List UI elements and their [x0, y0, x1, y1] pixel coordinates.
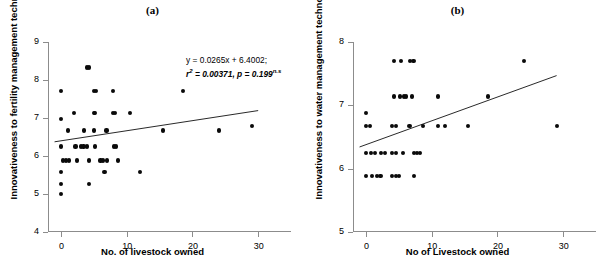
data-point — [66, 128, 70, 132]
y-tick-label: 8 — [34, 74, 39, 84]
data-point — [92, 128, 96, 132]
data-point — [114, 144, 118, 148]
x-tick-label: 30 — [254, 241, 264, 251]
data-point — [373, 151, 377, 155]
panel-b-y-axis-label: Innovativeness to water management techn… — [313, 0, 324, 200]
x-tick-label: 0 — [364, 241, 369, 251]
x-tick: 10 — [127, 232, 128, 237]
x-tick: 20 — [497, 232, 498, 237]
data-point — [392, 94, 396, 98]
x-tick: 20 — [192, 232, 193, 237]
data-point — [555, 124, 559, 128]
data-point — [418, 151, 422, 155]
panel-a: (a) Innovativeness to fertility manageme… — [0, 0, 305, 272]
panel-a-label: (a) — [0, 4, 305, 16]
data-point — [411, 59, 415, 63]
data-point — [421, 124, 425, 128]
data-point — [67, 158, 71, 162]
panel-a-regression-annotation: y = 0.0265x + 6.4002; r2 = 0.00371, p = … — [186, 54, 281, 80]
data-point — [87, 158, 91, 162]
y-tick-label: 7 — [34, 112, 39, 122]
x-tick-label: 10 — [427, 241, 437, 251]
data-point — [93, 144, 97, 148]
data-point — [105, 158, 109, 162]
panel-a-equation: y = 0.0265x + 6.4002; — [186, 54, 281, 67]
data-point — [407, 124, 411, 128]
regression-line — [353, 42, 596, 232]
y-tick: 4 — [43, 232, 48, 233]
panel-a-significance-marker: n.s — [273, 68, 282, 74]
panel-b-plot-area: 56780102030 — [353, 42, 596, 232]
data-point — [217, 128, 221, 132]
x-tick: 0 — [366, 232, 367, 237]
x-tick: 10 — [432, 232, 433, 237]
data-point — [486, 94, 490, 98]
data-point — [128, 111, 132, 115]
data-point — [401, 151, 405, 155]
data-point — [73, 144, 77, 148]
panel-a-y-axis-label: Innovativeness to fertility management t… — [8, 0, 19, 200]
y-tick-label: 5 — [34, 188, 39, 198]
y-tick-label: 6 — [34, 150, 39, 160]
y-tick: 5 — [348, 232, 353, 233]
x-tick: 30 — [563, 232, 564, 237]
data-point — [59, 144, 63, 148]
x-tick: 0 — [61, 232, 62, 237]
y-tick-label: 6 — [339, 163, 344, 173]
x-tick-label: 20 — [493, 241, 503, 251]
y-tick-label: 4 — [34, 226, 39, 236]
x-tick-label: 30 — [559, 241, 569, 251]
x-tick-label: 10 — [122, 241, 132, 251]
y-tick-label: 9 — [34, 36, 39, 46]
x-tick-label: 20 — [188, 241, 198, 251]
x-tick-label: 0 — [59, 241, 64, 251]
data-point — [82, 128, 86, 132]
data-point — [75, 158, 79, 162]
panel-a-stats-main: = 0.00371, p = 0.199 — [193, 68, 273, 78]
panel-a-stats: r2 = 0.00371, p = 0.199n.s — [186, 67, 281, 80]
data-point — [404, 94, 408, 98]
y-tick-label: 7 — [339, 99, 344, 109]
y-tick-label: 5 — [339, 226, 344, 236]
panel-b: (b) Innovativeness to water management t… — [305, 0, 610, 272]
y-tick-label: 8 — [339, 36, 344, 46]
data-point — [161, 128, 165, 132]
panel-b-label: (b) — [305, 4, 610, 16]
data-point — [394, 151, 398, 155]
figure-container: (a) Innovativeness to fertility manageme… — [0, 0, 610, 272]
data-point — [113, 111, 117, 115]
data-point — [522, 59, 526, 63]
data-point — [116, 158, 120, 162]
data-point — [104, 128, 108, 132]
data-point — [410, 94, 414, 98]
x-tick: 30 — [258, 232, 259, 237]
